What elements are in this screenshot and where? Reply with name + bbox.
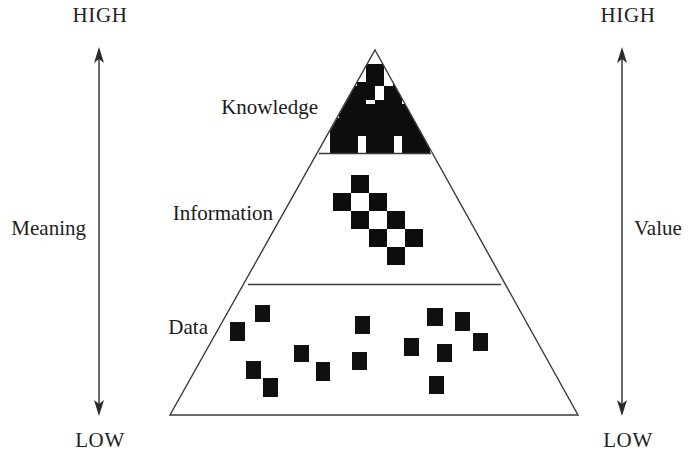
information-checker-cell [405, 229, 423, 247]
knowledge-checker-cell [375, 100, 393, 118]
data-scatter-square [316, 362, 330, 381]
data-scatter-square [404, 338, 419, 356]
right-axis-low-label: LOW [603, 428, 653, 452]
data-scatter-square [429, 376, 444, 394]
left-axis-low-label: LOW [75, 428, 125, 452]
information-checker-cell [369, 229, 387, 247]
knowledge-checker-cell [348, 118, 366, 136]
tier-label-knowledge: Knowledge [221, 95, 318, 119]
information-checker-cell [369, 193, 387, 211]
tier-label-information: Information [173, 201, 274, 225]
data-scatter-square [263, 378, 278, 397]
data-scatter-square [355, 316, 370, 334]
knowledge-checker-cell [366, 64, 384, 82]
data-scatter-square [352, 352, 367, 370]
left-axis-label: Meaning [11, 216, 86, 240]
knowledge-checker-cell [357, 82, 375, 100]
data-scatter-square [455, 312, 470, 331]
knowledge-checker-cell [330, 136, 348, 154]
dikw-pyramid-diagram: HIGH Meaning LOW HIGH Value LOW [0, 0, 697, 461]
diagram-canvas: HIGH Meaning LOW HIGH Value LOW [0, 0, 697, 461]
right-axis-high-label: HIGH [601, 3, 656, 27]
data-scatter-square [473, 333, 488, 351]
information-checker-cell [351, 211, 369, 229]
data-scatter-square [294, 345, 309, 362]
data-scatter-square [255, 305, 270, 322]
data-scatter-square [230, 322, 245, 341]
information-checker-cell [387, 211, 405, 229]
knowledge-checker-cell [384, 118, 402, 136]
tier-label-data: Data [168, 315, 208, 339]
information-checker-cell [351, 175, 369, 193]
canvas-background [0, 0, 697, 461]
knowledge-checker-cell [366, 136, 384, 154]
information-checker-cell [333, 193, 351, 211]
right-axis-label: Value [634, 216, 682, 240]
left-axis-high-label: HIGH [73, 3, 128, 27]
knowledge-checker-cell [402, 136, 420, 154]
knowledge-checker-cell [366, 118, 384, 136]
data-scatter-square [437, 344, 452, 362]
information-checker-cell [387, 247, 405, 265]
data-scatter-square [246, 361, 261, 379]
data-scatter-square [427, 308, 443, 326]
